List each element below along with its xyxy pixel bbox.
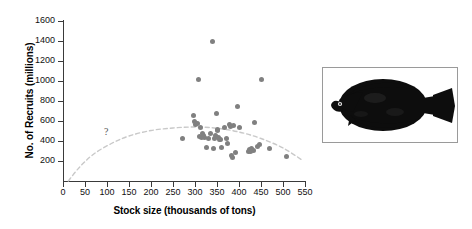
y-tick-label-text: 1000 xyxy=(35,76,55,85)
scatter-point xyxy=(196,77,201,82)
figure-root: 2004006008001000120014001600 05010015020… xyxy=(0,0,472,229)
stock-recruitment-curve xyxy=(63,21,306,182)
scatter-point xyxy=(233,150,238,155)
flatfish-plaice-icon xyxy=(323,68,457,142)
x-axis-title: Stock size (thousands of tons) xyxy=(63,205,306,216)
y-tick-label-text: 1400 xyxy=(35,36,55,45)
question-mark-annotation: ? xyxy=(104,126,108,137)
scatter-point xyxy=(252,120,257,125)
y-axis-title: No. of Recruits (millions) xyxy=(24,16,35,186)
scatter-point xyxy=(230,155,235,160)
scatter-point xyxy=(225,141,230,146)
scatter-point xyxy=(210,39,215,44)
scatter-point xyxy=(259,77,264,82)
scatter-point xyxy=(222,125,227,130)
y-tick-label-text: 800 xyxy=(40,96,55,105)
scatter-point xyxy=(180,136,185,141)
y-tick-label-text: 200 xyxy=(40,156,55,165)
scatter-point xyxy=(191,113,196,118)
y-tick-label-text: 400 xyxy=(40,136,55,145)
scatter-point xyxy=(284,154,289,159)
y-tick-label-text: 1200 xyxy=(35,56,55,65)
flatfish-photo-box xyxy=(322,67,458,143)
scatter-point xyxy=(235,104,240,109)
y-tick-label-text: 1600 xyxy=(35,16,55,25)
scatter-point xyxy=(214,111,219,116)
x-tick-label-550: 550 xyxy=(292,188,318,197)
y-tick-label-text: 600 xyxy=(40,116,55,125)
scatter-point xyxy=(204,145,209,150)
scatter-point xyxy=(251,148,256,153)
scatter-point xyxy=(198,125,203,130)
scatter-point xyxy=(211,146,216,151)
scatter-point xyxy=(224,136,229,141)
